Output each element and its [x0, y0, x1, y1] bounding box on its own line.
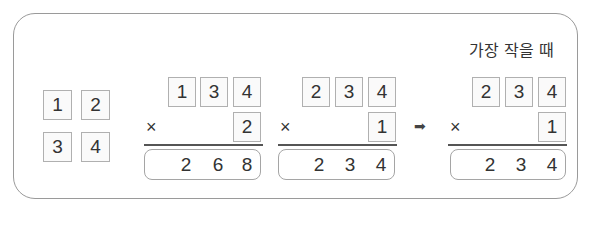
times-sign: ×: [280, 117, 291, 138]
result-digit: 4: [367, 154, 395, 176]
result-digit: 3: [336, 154, 364, 176]
digit-box: 4: [368, 77, 396, 107]
digit-box: 2: [472, 77, 500, 107]
number-tile: 4: [81, 132, 110, 162]
result-digit: 6: [204, 154, 232, 176]
result-digit: 2: [476, 154, 504, 176]
multiplier-box: 1: [368, 112, 396, 142]
result-line: [144, 144, 263, 146]
result-digit: 4: [538, 154, 566, 176]
times-sign: ×: [146, 117, 157, 138]
multiplier-box: 2: [233, 112, 261, 142]
result-box: 2 3 4: [450, 149, 566, 180]
result-line: [448, 144, 567, 146]
result-digit: 3: [507, 154, 535, 176]
result-digit: 2: [305, 154, 333, 176]
result-digit: 2: [172, 154, 200, 176]
digit-box: 4: [538, 77, 566, 107]
result-box: 2 3 4: [278, 149, 395, 180]
result-box: 2 6 8: [144, 149, 261, 180]
digit-box: 4: [233, 77, 261, 107]
right-arrow-icon: ➡: [414, 118, 426, 134]
digit-box: 1: [168, 77, 196, 107]
multiplier-box: 1: [538, 112, 566, 142]
times-sign: ×: [450, 117, 461, 138]
result-digit: 8: [233, 154, 261, 176]
digit-box: 3: [505, 77, 533, 107]
result-line: [278, 144, 397, 146]
number-tile: 1: [43, 90, 72, 120]
heading-smallest: 가장 작을 때: [469, 37, 554, 61]
digit-box: 3: [200, 77, 228, 107]
number-tile: 3: [43, 132, 72, 162]
digit-box: 2: [302, 77, 330, 107]
number-tile: 2: [81, 90, 110, 120]
digit-box: 3: [335, 77, 363, 107]
